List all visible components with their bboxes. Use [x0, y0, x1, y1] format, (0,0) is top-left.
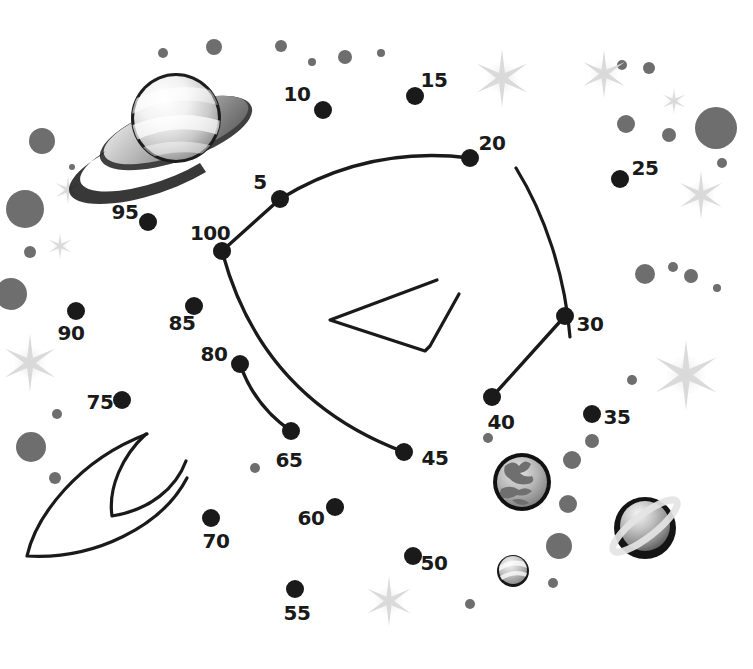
- dot-label-90: 90: [58, 321, 85, 345]
- background-speck: [627, 375, 637, 385]
- puzzle-dot-50[interactable]: [404, 547, 422, 565]
- background-speck: [717, 158, 727, 168]
- dot-label-75: 75: [87, 390, 114, 414]
- background-speck: [546, 533, 572, 559]
- background-star: [583, 50, 625, 98]
- background-speck: [250, 463, 260, 473]
- background-speck: [483, 433, 493, 443]
- background-speck: [49, 472, 61, 484]
- puzzle-dot-5[interactable]: [271, 190, 289, 208]
- star-shape: [367, 576, 410, 626]
- marble-planet: [497, 555, 529, 587]
- background-speck: [206, 39, 222, 55]
- puzzle-dot-30[interactable]: [556, 307, 574, 325]
- saturn-planet-large: [69, 73, 261, 204]
- star-shape: [680, 171, 722, 219]
- puzzle-dot-20[interactable]: [461, 149, 479, 167]
- background-speck: [465, 599, 475, 609]
- puzzle-dot-75[interactable]: [113, 391, 131, 409]
- dot-label-20: 20: [479, 131, 506, 155]
- dot-label-15: 15: [421, 68, 448, 92]
- dot-label-100: 100: [190, 221, 230, 245]
- puzzle-dot-55[interactable]: [286, 580, 304, 598]
- background-speck: [585, 434, 599, 448]
- background-speck: [308, 58, 316, 66]
- dot-label-80: 80: [201, 342, 228, 366]
- background-star: [477, 49, 527, 107]
- connection-5-to-20: [280, 156, 470, 199]
- background-speck: [338, 50, 352, 64]
- background-speck: [52, 409, 62, 419]
- dot-label-70: 70: [203, 529, 230, 553]
- star-shape: [49, 233, 72, 259]
- puzzle-dot-90[interactable]: [67, 302, 85, 320]
- background-star: [680, 171, 722, 219]
- dot-label-60: 60: [298, 506, 325, 530]
- puzzle-dot-65[interactable]: [282, 422, 300, 440]
- background-speck: [16, 432, 46, 462]
- background-speck: [635, 264, 655, 284]
- loose-strokes-layer: [27, 168, 570, 556]
- background-speck: [617, 115, 635, 133]
- dot-label-40: 40: [488, 410, 515, 434]
- dot-label-25: 25: [632, 156, 659, 180]
- background-speck: [662, 128, 676, 142]
- background-speck: [643, 62, 655, 74]
- puzzle-dot-80[interactable]: [231, 355, 249, 373]
- dot-label-35: 35: [604, 405, 631, 429]
- puzzle-dot-40[interactable]: [483, 388, 501, 406]
- star-shape: [477, 49, 527, 107]
- background-star: [663, 88, 686, 114]
- background-star: [49, 233, 72, 259]
- star-shape: [5, 334, 55, 392]
- dot-label-45: 45: [422, 446, 449, 470]
- puzzle-dot-35[interactable]: [583, 405, 601, 423]
- background-speck: [563, 451, 581, 469]
- background-speck: [69, 164, 75, 170]
- background-speck: [668, 262, 678, 272]
- rocket-fin-chevron: [330, 280, 459, 351]
- puzzle-dot-60[interactable]: [326, 498, 344, 516]
- background-star: [367, 576, 410, 626]
- dot-label-55: 55: [284, 601, 311, 625]
- star-shape: [663, 88, 686, 114]
- background-speck: [158, 48, 168, 58]
- ringed-planet-small: [604, 493, 683, 560]
- background-speck: [29, 128, 55, 154]
- puzzle-dot-95[interactable]: [139, 213, 157, 231]
- background-speck: [548, 578, 558, 588]
- puzzle-canvas: 5101520253035404550556065707580859095100: [0, 0, 753, 669]
- background-speck: [684, 269, 698, 283]
- dot-label-5: 5: [253, 170, 266, 194]
- background-star: [5, 334, 55, 392]
- background-speck: [695, 107, 737, 149]
- background-speck: [559, 495, 577, 513]
- connection-80-to-65: [240, 364, 291, 431]
- puzzle-dot-10[interactable]: [314, 101, 332, 119]
- background-speck: [0, 278, 27, 310]
- earth-planet: [493, 453, 551, 511]
- background-star: [656, 340, 717, 410]
- background-speck: [6, 190, 44, 228]
- puzzle-dot-25[interactable]: [611, 170, 629, 188]
- puzzle-dot-45[interactable]: [395, 443, 413, 461]
- background-speck: [24, 246, 36, 258]
- dot-label-95: 95: [112, 200, 139, 224]
- connection-100-to-45: [222, 251, 404, 452]
- connection-30-to-40: [492, 316, 565, 397]
- background-speck: [377, 49, 385, 57]
- dot-label-65: 65: [276, 448, 303, 472]
- space-dot-to-dot-scene: [0, 0, 753, 669]
- marble-body: [499, 556, 527, 584]
- star-shape: [583, 50, 625, 98]
- background-speck: [713, 284, 721, 292]
- background-speck: [275, 40, 287, 52]
- puzzle-dot-70[interactable]: [202, 509, 220, 527]
- connection-100-to-5: [222, 199, 280, 251]
- dot-label-50: 50: [421, 551, 448, 575]
- dot-label-10: 10: [284, 82, 311, 106]
- dot-label-30: 30: [577, 312, 604, 336]
- dot-label-85: 85: [169, 311, 196, 335]
- star-shape: [656, 340, 717, 410]
